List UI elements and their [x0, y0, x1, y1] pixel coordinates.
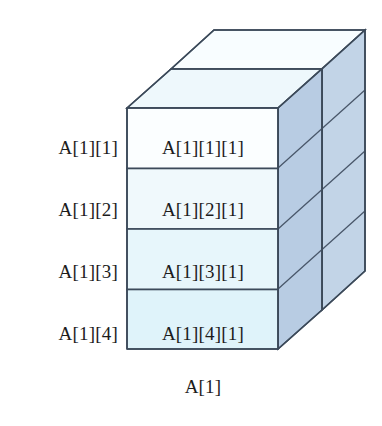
cell-label-2: A[1][2][1] [128, 200, 278, 219]
cell-label-3: A[1][3][1] [128, 262, 278, 281]
row-label-1: A[1][1] [14, 138, 118, 157]
row-label-3: A[1][3] [14, 262, 118, 281]
row-label-2: A[1][2] [14, 200, 118, 219]
figure-caption: A[1] [128, 377, 278, 396]
array-diagram: .edge { stroke: #3c4a5a; stroke-width: 1… [0, 0, 382, 426]
cell-label-4: A[1][4][1] [128, 324, 278, 343]
cell-label-1: A[1][1][1] [128, 138, 278, 157]
row-label-4: A[1][4] [14, 324, 118, 343]
